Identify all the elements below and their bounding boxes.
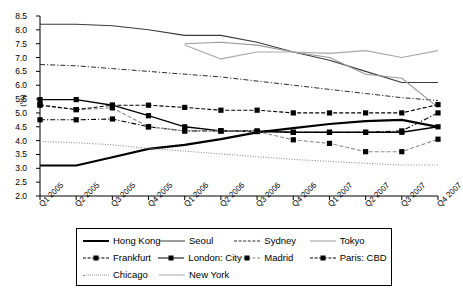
legend-label: New York [189,269,229,280]
legend-label: Chicago [113,269,148,280]
legend-key-icon [83,269,109,280]
series-line [40,100,438,133]
series-line [40,120,438,166]
series-marker [255,129,260,134]
legend-key-icon [310,252,336,263]
series-marker [291,130,296,135]
series-marker [327,141,332,146]
legend-marker-icon [320,255,325,260]
legend-row: Hong KongSeoulSydneyTokyo [83,232,387,249]
series-marker [399,130,404,135]
y-tick-label: 2.5 [15,178,27,186]
legend-key-icon [159,235,185,246]
series-marker [399,149,404,154]
series-marker [218,108,223,113]
series-line [185,45,438,59]
series-marker [218,128,223,133]
series-marker [291,137,296,142]
y-tick-label: 3.5 [15,150,27,158]
series-marker [435,137,440,142]
legend-key-icon [234,252,260,263]
legend-row: FrankfurtLondon: CityMadridParis: CBD [83,249,387,266]
legend-label: Seoul [189,235,213,246]
series-line [40,105,438,152]
series-marker [255,108,260,113]
y-tick-label: 8.5 [15,12,27,20]
y-tick-label: 5.5 [15,95,27,103]
series-marker [146,103,151,108]
series-marker [363,149,368,154]
series-marker [435,102,440,107]
legend-row: ChicagoNew York [83,266,387,283]
legend-item-sydney[interactable]: Sydney [234,232,309,249]
series-marker [37,103,42,108]
legend-label: Hong Kong [113,235,161,246]
legend-item-chicago[interactable]: Chicago [83,266,159,283]
series-marker [146,124,151,129]
series-marker [182,105,187,110]
y-tick-label: 7.0 [15,54,27,62]
legend-marker-icon [169,255,174,260]
series-marker [363,130,368,135]
legend-key-icon [159,269,185,280]
series-line [40,65,438,101]
series-marker [399,110,404,115]
series-marker [327,130,332,135]
legend-key-icon [83,252,109,263]
series-marker [435,110,440,115]
y-tick-label: 8.0 [15,26,27,34]
series-line [40,113,438,132]
legend-label: Madrid [264,252,293,263]
legend-label: Tokyo [340,235,365,246]
series-marker [110,103,115,108]
legend-item-seoul[interactable]: Seoul [159,232,234,249]
y-tick-label: 3.0 [15,164,27,172]
series-marker [37,117,42,122]
legend-key-icon [158,252,184,263]
series-marker [291,110,296,115]
series-marker [146,113,151,118]
legend-label: Frankfurt [113,252,151,263]
y-axis-ticks: 8.58.07.57.06.56.05.55.04.54.03.53.02.52… [0,0,36,200]
legend-item-paris-cbd[interactable]: Paris: CBD [310,249,387,266]
legend-marker-icon [94,255,99,260]
y-tick-label: 4.5 [15,123,27,131]
series-marker [182,128,187,133]
legend-key-icon [83,235,109,246]
y-tick-label: 2.0 [15,192,27,200]
legend-item-london-city[interactable]: London: City [158,249,234,266]
legend-item-madrid[interactable]: Madrid [234,249,309,266]
series-marker [435,124,440,129]
series-marker [37,97,42,102]
series-marker [363,110,368,115]
series-marker [74,107,79,112]
series-line [40,141,438,165]
series-marker [74,97,79,102]
legend-item-hong-kong[interactable]: Hong Kong [83,232,159,249]
legend-marker-icon [245,255,250,260]
series-marker [327,110,332,115]
y-tick-label: 5.0 [15,109,27,117]
legend-item-new-york[interactable]: New York [159,266,235,283]
legend-label: Paris: CBD [340,252,387,263]
legend-key-icon [234,235,260,246]
series-marker [110,116,115,121]
legend-item-tokyo[interactable]: Tokyo [310,232,387,249]
y-tick-label: 7.5 [15,40,27,48]
y-tick-label: 6.0 [15,81,27,89]
y-tick-label: 4.0 [15,137,27,145]
legend-item-frankfurt[interactable]: Frankfurt [83,249,158,266]
y-tick-label: 6.5 [15,67,27,75]
legend-label: Sydney [264,235,296,246]
series-marker [74,117,79,122]
legend-key-icon [310,235,336,246]
chart-legend: Hong KongSeoulSydneyTokyoFrankfurtLondon… [76,228,392,286]
